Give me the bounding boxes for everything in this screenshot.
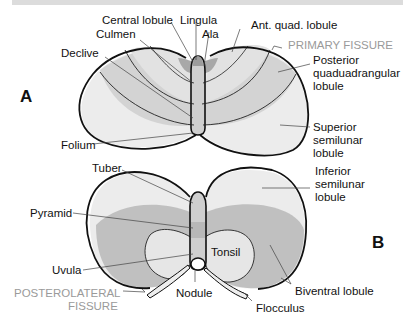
label-flocculus: Flocculus (256, 302, 305, 314)
label-lingula: Lingula (180, 14, 218, 26)
nodule-shape (191, 258, 205, 270)
label-inferior-1: Inferior (315, 165, 351, 177)
label-posterior-2: quaduadrangular (313, 67, 400, 79)
label-primary-fissure: PRIMARY FISSURE (288, 39, 393, 51)
label-inferior-3: lobule (315, 191, 346, 203)
label-central-lobule: Central lobule (102, 14, 173, 26)
cerebellum-diagram: A Central lobule Lingula Culmen Ala Ant.… (0, 0, 403, 330)
pyramid-shape (191, 222, 205, 238)
label-superior-1: Superior (313, 121, 357, 133)
label-tuber: Tuber (92, 162, 122, 174)
label-culmen: Culmen (96, 28, 136, 40)
label-pyramid: Pyramid (30, 207, 72, 219)
label-ant-quad-lobule: Ant. quad. lobule (251, 19, 337, 31)
label-inferior-2: semilunar (315, 178, 365, 190)
label-declive: Declive (61, 47, 99, 59)
panel-letter-a: A (20, 87, 32, 106)
label-posterior-1: Posterior (313, 54, 359, 66)
label-posterior-3: lobule (313, 80, 344, 92)
label-folium: Folium (61, 139, 96, 151)
label-posterolateral-1: POSTEROLATERAL (14, 287, 121, 299)
panel-letter-b: B (372, 233, 384, 252)
label-nodule: Nodule (176, 287, 212, 299)
label-uvula: Uvula (52, 264, 82, 276)
label-tonsil: Tonsil (211, 246, 240, 258)
panel-a-superior-view: A Central lobule Lingula Culmen Ala Ant.… (20, 14, 400, 159)
label-superior-3: lobule (313, 147, 344, 159)
label-biventral-lobule: Biventral lobule (295, 285, 374, 297)
label-ala: Ala (202, 28, 219, 40)
label-posterolateral-2: FISSURE (68, 300, 118, 312)
vermis-a (191, 56, 205, 135)
panel-b-inferior-view: B Tuber Inferior semilunar lobule Pyrami… (14, 162, 384, 314)
label-superior-2: semilunar (313, 134, 363, 146)
